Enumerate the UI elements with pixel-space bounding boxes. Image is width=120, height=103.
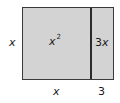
region-x-squared-label: x2: [49, 36, 61, 47]
base: x: [49, 35, 56, 48]
coefficient: 3: [95, 36, 102, 49]
bottom-left-label: x: [53, 86, 60, 97]
bottom-right-label: 3: [98, 86, 105, 97]
region-3x-label: 3x: [95, 37, 109, 48]
left-side-label: x: [9, 37, 16, 48]
variable: x: [102, 36, 109, 49]
exponent: 2: [57, 33, 61, 41]
region-divider: [90, 8, 92, 79]
